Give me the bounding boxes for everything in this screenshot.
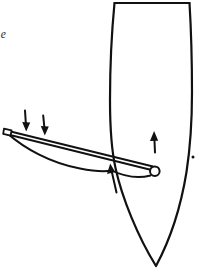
canoe-hull-outline [110,3,192,266]
figure-page: e es h [0,0,205,274]
arrow-down-left-inner-icon [41,116,49,136]
hull-reference-dot [192,156,195,159]
arrow-down-left-outer-icon [22,111,30,132]
spar-end-ring [150,166,160,176]
spar-end-cap [3,129,11,136]
boat-hull-figure [0,0,205,274]
